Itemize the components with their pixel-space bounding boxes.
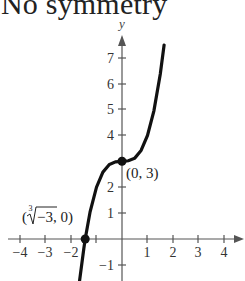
svg-text:(: (: [22, 209, 27, 226]
x-tick-label: −2: [64, 245, 79, 260]
y-tick-label: 5: [107, 102, 114, 117]
y-tick-label: 7: [107, 51, 114, 66]
y-tick-label: 2: [107, 180, 114, 195]
label-y-intercept: (0, 3): [126, 165, 159, 182]
y-tick-label: 6: [107, 77, 114, 92]
point-x-intercept: [81, 235, 90, 244]
y-tick-label: 1: [107, 206, 114, 221]
x-tick-label: 1: [144, 245, 151, 260]
y-tick-label: −1: [99, 258, 114, 273]
y-axis-label: y: [117, 16, 125, 31]
label-x-intercept: ( 3 −3, 0): [22, 204, 73, 226]
x-tick-label: 3: [195, 245, 202, 260]
y-tick-label: 4: [107, 128, 114, 143]
svg-text:−3, 0): −3, 0): [37, 209, 73, 226]
y-axis-arrow-icon: [118, 35, 126, 46]
cube-root-index: 3: [29, 204, 33, 213]
graph: −4 −3 −2 1 2 3 4 −1 1 2 4 5 6 7 y (0, 3)…: [0, 0, 245, 281]
x-tick-label: −4: [13, 245, 28, 260]
x-axis: [8, 235, 244, 243]
x-tick-label: 4: [221, 245, 228, 260]
x-tick-label: −3: [38, 245, 53, 260]
x-axis-arrow-icon: [234, 235, 244, 243]
x-tick-label: 2: [170, 245, 177, 260]
